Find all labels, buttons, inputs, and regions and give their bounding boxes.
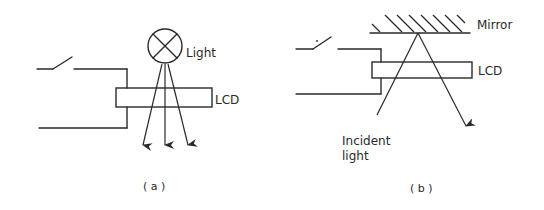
mirror-label: Mirror [477, 18, 512, 32]
ray-left [143, 64, 162, 145]
switch-blade [53, 57, 72, 69]
incident-label-line1: Incident [342, 134, 391, 148]
incident-ray [377, 33, 418, 115]
incident-label-line2: light [342, 149, 369, 163]
mirror-icon [370, 15, 470, 33]
lcd-illumination-diagram: Light LCD ( a ) [0, 0, 544, 210]
lcd-label-a: LCD [215, 93, 239, 107]
panel-b: Mirror LCD Incident light ( b ) [296, 15, 512, 195]
caption-a: ( a ) [143, 180, 165, 193]
caption-b: ( b ) [410, 182, 433, 195]
lamp-icon [148, 29, 182, 63]
panel-a: Light LCD ( a ) [37, 29, 239, 193]
switch-contact-dot [316, 40, 318, 42]
lcd-label-b: LCD [478, 64, 502, 78]
circuit-a [37, 57, 127, 128]
reflected-ray [418, 33, 466, 126]
lcd-panel-a [116, 88, 212, 107]
light-label: Light [186, 46, 216, 60]
light-rays-a [143, 64, 188, 145]
light-path-b [377, 33, 466, 126]
switch-blade [313, 37, 331, 49]
lcd-panel-b [372, 62, 472, 78]
circuit-b [296, 37, 381, 94]
ray-right [168, 64, 188, 145]
